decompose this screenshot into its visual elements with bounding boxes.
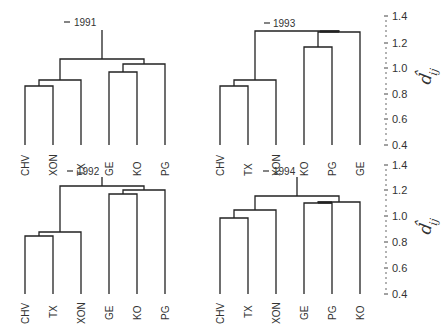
tick-label: 0.4: [392, 139, 407, 151]
tick-label: 0.8: [392, 236, 407, 248]
axis-title-sub: ij: [427, 67, 441, 77]
tick-label: 0.8: [392, 88, 407, 100]
leaf-label: XON: [271, 302, 282, 324]
leaf-label: GE: [104, 161, 115, 176]
year-marker-1992: 1992: [67, 166, 100, 177]
tick-label: 1.2: [392, 184, 407, 196]
leaf-label: KO: [132, 161, 143, 176]
axis-title-sub: ij: [427, 217, 441, 227]
leaf-label: CHV: [20, 303, 31, 324]
y-axis-top: 1.4 1.2 1.0 0.8 0.6 0.4 d̂ ij: [384, 10, 441, 151]
leaf-label: TX: [243, 163, 254, 176]
dendrogram-figure: 1991 CHV XON TX GE KO PG 1993 CHV TX XON…: [0, 0, 447, 324]
tick-label: 0.4: [392, 288, 407, 300]
dendrogram-1991: [25, 30, 165, 145]
year-label-1994: 1994: [273, 166, 296, 177]
y-axis-title: d̂ ij: [414, 65, 441, 87]
leaf-label: CHV: [215, 303, 226, 324]
leaf-label: XON: [48, 154, 59, 176]
leaf-labels-1994: CHV TX XON GE PG KO: [215, 302, 366, 324]
tick-label: 1.2: [392, 37, 407, 49]
leaf-label: XON: [76, 302, 87, 324]
tick-label: 0.6: [392, 113, 407, 125]
minor-ticks: [385, 21, 387, 140]
major-ticks: [384, 16, 388, 145]
year-label-1991: 1991: [74, 17, 97, 28]
year-marker-1994: 1994: [263, 166, 296, 177]
leaf-label: KO: [299, 161, 310, 176]
tick-label: 1.0: [392, 210, 407, 222]
tick-label: 0.6: [392, 262, 407, 274]
y-axis-title: d̂ ij: [414, 215, 441, 237]
tick-label: 1.0: [392, 62, 407, 74]
minor-ticks: [385, 170, 387, 289]
leaf-label: CHV: [215, 155, 226, 176]
leaf-label: PG: [327, 305, 338, 320]
leaf-label: CHV: [20, 155, 31, 176]
year-label-1993: 1993: [273, 18, 296, 29]
leaf-labels-1992: CHV TX XON GE KO PG: [20, 302, 171, 324]
tick-label: 1.4: [392, 10, 407, 22]
leaf-label: GE: [299, 305, 310, 320]
leaf-label: PG: [160, 305, 171, 320]
dendrogram-1993: [220, 31, 360, 145]
major-ticks: [384, 165, 388, 294]
leaf-label: KO: [355, 305, 366, 320]
leaf-label: PG: [160, 161, 171, 176]
y-axis-bottom: 1.4 1.2 1.0 0.8 0.6 0.4 d̂ ij: [384, 159, 441, 300]
tick-label: 1.4: [392, 159, 407, 171]
leaf-label: PG: [327, 161, 338, 176]
year-label-1992: 1992: [77, 166, 100, 177]
leaf-label: TX: [48, 305, 59, 318]
leaf-label: GE: [104, 305, 115, 320]
leaf-label: GE: [355, 161, 366, 176]
dendrogram-1992: [25, 177, 165, 294]
dendrogram-1994: [220, 177, 360, 294]
year-marker-1993: 1993: [264, 18, 296, 29]
leaf-label: KO: [132, 305, 143, 320]
leaf-label: TX: [243, 305, 254, 318]
year-marker-1991: 1991: [64, 17, 97, 28]
